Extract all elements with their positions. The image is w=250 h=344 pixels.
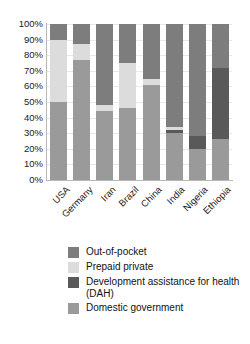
legend-swatch-icon [68,277,79,288]
legend-item-label: Out-of-pocket [86,246,147,258]
legend-item-label: Domestic government [86,302,183,314]
stacked-bar-chart-figure: 100%90%80%70%60%50%40%30%20%10%0% USAGer… [0,0,250,344]
legend-item[interactable]: Development assistance for health (DAH) [68,276,248,299]
x-axis-tick-label-china: China [139,184,164,209]
legend-swatch-icon [68,262,79,273]
legend-item-label: Development assistance for health (DAH) [86,276,248,299]
chart-legend: Out-of-pocketPrepaid privateDevelopment … [68,246,248,317]
x-axis-tick-label-brazil: Brazil [116,184,141,209]
legend-item[interactable]: Out-of-pocket [68,246,248,258]
legend-item[interactable]: Domestic government [68,302,248,314]
legend-item[interactable]: Prepaid private [68,261,248,273]
x-axis-tick-label-iran: Iran [98,184,117,203]
legend-swatch-icon [68,303,79,314]
legend-item-label: Prepaid private [86,261,153,273]
legend-swatch-icon [68,247,79,258]
